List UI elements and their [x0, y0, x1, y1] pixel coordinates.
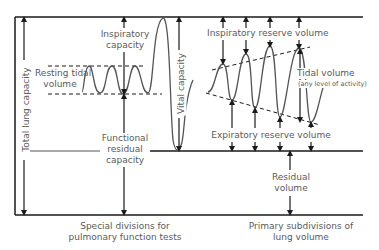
label-resting-tidal-1: Resting tidal [34, 68, 86, 79]
label-tidal-volume: Tidal volume [296, 68, 358, 79]
irv-arrows [223, 19, 299, 62]
caption-primary-subdivisions-1: Primary subdivisions of [240, 221, 362, 232]
tidal-lower-envelope [206, 93, 320, 125]
label-irv: Inspiratory reserve volume [206, 28, 328, 39]
caption-special-divisions-2: pulmonary function tests [64, 232, 186, 243]
tidal-upper-envelope [212, 47, 310, 70]
label-inspiratory-capacity-1: Inspiratory [94, 29, 156, 40]
label-vital-capacity: Vital capacity [176, 52, 187, 116]
label-frc-2: residual [100, 144, 150, 155]
label-tidal-volume-note: (any level of activity) [297, 80, 364, 88]
caption-special-divisions-1: Special divisions for [64, 221, 186, 232]
label-frc-3: capacity [100, 155, 150, 166]
label-total-lung-capacity: Total lung capacity [21, 64, 32, 156]
caption-primary-subdivisions-2: lung volume [240, 232, 362, 243]
label-inspiratory-capacity-2: capacity [94, 40, 156, 51]
label-erv: Expiratory reserve volume [208, 130, 334, 141]
label-residual-2: volume [268, 183, 314, 194]
erv-arrows [232, 102, 311, 149]
label-resting-tidal-2: volume [34, 79, 86, 90]
label-frc-1: Functional [100, 133, 150, 144]
label-residual-1: Residual [268, 172, 314, 183]
